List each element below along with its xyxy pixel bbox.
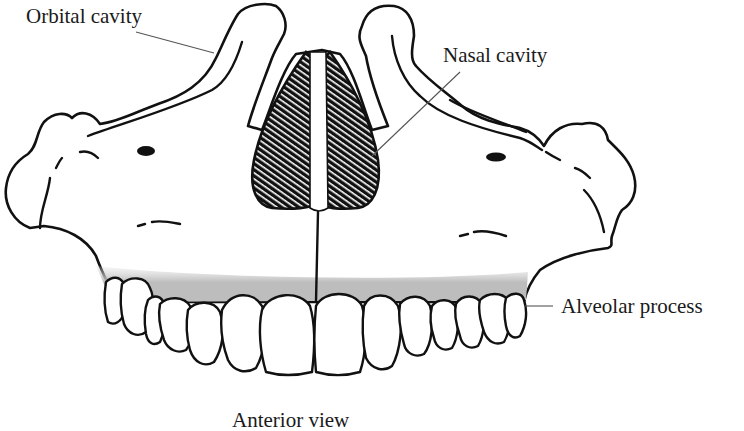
- label-orbital-cavity: Orbital cavity: [26, 6, 142, 27]
- infraorbital-foramen-left: [137, 146, 155, 156]
- leader-orbital-cavity: [136, 32, 214, 53]
- infraorbital-foramen-right: [486, 153, 506, 162]
- nasal-septum: [310, 52, 328, 211]
- label-alveolar-process: Alveolar process: [561, 296, 703, 317]
- nasal-cavity: [252, 52, 379, 211]
- caption-view: Anterior view: [232, 410, 349, 431]
- label-nasal-cavity: Nasal cavity: [443, 45, 547, 66]
